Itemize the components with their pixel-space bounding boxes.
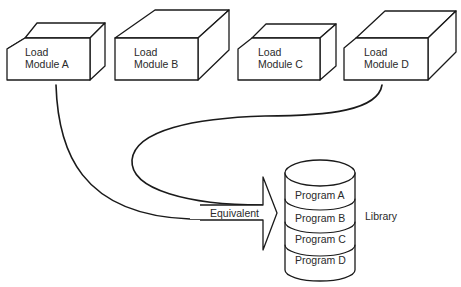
load-module-d: Load Module D: [344, 11, 456, 80]
library-label: Library: [365, 210, 398, 222]
program-a-label: Program A: [295, 189, 345, 201]
program-c-label: Program C: [295, 233, 346, 245]
module-c-line2: Module C: [258, 58, 303, 70]
load-module-b: Load Module B: [115, 10, 229, 80]
load-module-c: Load Module C: [238, 24, 336, 80]
equivalent-label: Equivalent: [210, 207, 259, 219]
module-b-line2: Module B: [134, 58, 178, 70]
module-a-line2: Module A: [25, 58, 69, 70]
connector-module-a: [56, 85, 262, 219]
library-cylinder: Program A Program B Program C Program D: [285, 160, 355, 281]
program-d-label: Program D: [295, 254, 346, 266]
module-b-line1: Load: [134, 46, 158, 58]
program-b-label: Program B: [295, 212, 345, 224]
equivalent-arrow: Equivalent: [190, 177, 277, 250]
module-d-line1: Load: [364, 46, 388, 58]
load-module-a: Load Module A: [7, 23, 105, 80]
diagram-canvas: Equivalent Load Module A Load Module B L…: [0, 0, 461, 287]
module-c-line1: Load: [258, 46, 282, 58]
module-a-line1: Load: [25, 46, 49, 58]
module-d-line2: Module D: [364, 58, 409, 70]
